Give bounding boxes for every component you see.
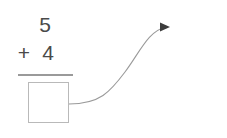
addition-bottom-addend: 4	[35, 42, 61, 63]
worksheet-canvas: 5 + 4 − 2	[0, 0, 227, 138]
plus-operator-icon: +	[13, 42, 35, 63]
addition-answer-box[interactable]	[28, 82, 69, 123]
addition-rule-line	[18, 74, 73, 76]
subtraction-problem: − 2	[127, 0, 227, 138]
addition-problem: 5 + 4	[0, 0, 100, 138]
addition-top-addend: 5	[30, 14, 60, 35]
